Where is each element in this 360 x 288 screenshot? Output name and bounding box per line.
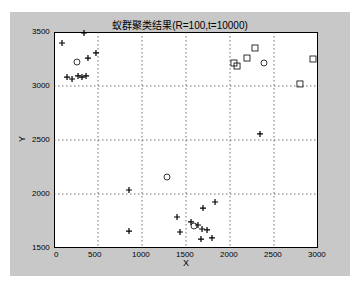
scatter-plot <box>0 0 360 288</box>
x-tick-label: 1000 <box>132 250 150 259</box>
y-tick-label: 3500 <box>32 27 50 36</box>
y-axis-label: Y <box>17 136 27 142</box>
x-tick-label: 0 <box>54 250 58 259</box>
x-tick-label: 2000 <box>220 250 238 259</box>
y-tick-label: 1500 <box>32 243 50 252</box>
y-tick-label: 3000 <box>32 81 50 90</box>
x-axis-label: X <box>183 258 189 268</box>
x-tick-label: 2500 <box>264 250 282 259</box>
x-tick-label: 3000 <box>308 250 326 259</box>
y-tick-label: 2000 <box>32 189 50 198</box>
x-tick-label: 500 <box>88 250 101 259</box>
y-tick-label: 2500 <box>32 135 50 144</box>
